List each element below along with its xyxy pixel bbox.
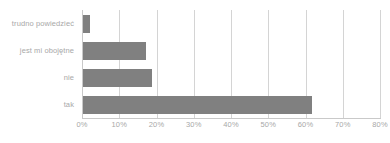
x-tick-label-30: 30%: [186, 121, 201, 129]
bar-2: [83, 69, 152, 87]
x-axis-line: [82, 118, 381, 119]
category-label-3: tak: [0, 101, 74, 109]
bar-3: [83, 96, 312, 114]
x-tick-label-50: 50%: [261, 121, 276, 129]
x-tick-label-70: 70%: [335, 121, 350, 129]
x-tick-label-20: 20%: [149, 121, 164, 129]
x-tick-label-10: 10%: [112, 121, 127, 129]
category-axis: trudno powiedziećjest mi obojętnenietak: [0, 10, 78, 118]
x-tick-label-80: 80%: [372, 121, 387, 129]
x-tick-label-40: 40%: [223, 121, 238, 129]
category-label-2: nie: [0, 74, 74, 82]
bar-0: [83, 15, 90, 33]
gridline-70: [343, 10, 344, 118]
bar-chart: trudno powiedziećjest mi obojętnenietak …: [0, 0, 390, 143]
category-label-0: trudno powiedzieć: [0, 20, 74, 28]
plot-area: [82, 10, 380, 118]
x-tick-label-0: 0%: [76, 121, 87, 129]
value-axis: 0%10%20%30%40%50%60%70%80%: [82, 121, 380, 135]
bar-1: [83, 42, 146, 60]
x-tick-label-60: 60%: [298, 121, 313, 129]
category-label-1: jest mi obojętne: [0, 47, 74, 55]
gridline-80: [380, 10, 381, 118]
